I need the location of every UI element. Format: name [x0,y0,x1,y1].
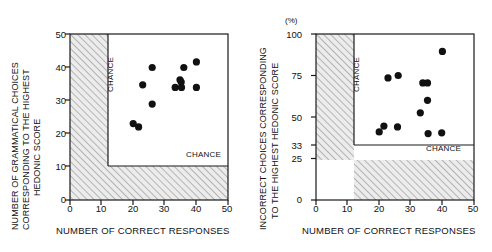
excluded-region-hatch [316,34,474,200]
data-point [394,123,401,130]
data-point [384,74,391,81]
plot-canvas-right [246,0,492,252]
data-point [180,64,187,71]
data-point [139,81,146,88]
panel-right: INCORRECT CHOICES CORRESPONDING TO THE H… [246,0,492,252]
y-axis-ticks [311,34,316,200]
y-axis-ticks [65,34,70,200]
chance-lines [354,34,474,145]
figure-scatter-pair: NUMBER OF GRAMMATICAL CHOICES CORRESPOND… [0,0,492,252]
data-point [193,84,200,91]
data-point [424,79,431,86]
x-axis-ticks [70,200,228,205]
data-point [172,84,179,91]
plot-canvas-left [0,0,246,252]
data-point [425,130,432,137]
data-point [149,101,156,108]
data-points-left [130,58,200,130]
data-point [193,58,200,65]
data-point [380,123,387,130]
x-axis-ticks [316,200,474,205]
data-point [439,48,446,55]
panel-left: NUMBER OF GRAMMATICAL CHOICES CORRESPOND… [0,0,246,252]
excluded-region-hatch [70,34,228,200]
data-point [438,129,445,136]
data-point [395,72,402,79]
data-points-right [376,48,446,137]
data-point [149,64,156,71]
data-point [178,84,185,91]
data-point [135,123,142,130]
data-point [376,128,383,135]
data-point [424,97,431,104]
chance-lines [108,34,228,166]
data-point [417,109,424,116]
